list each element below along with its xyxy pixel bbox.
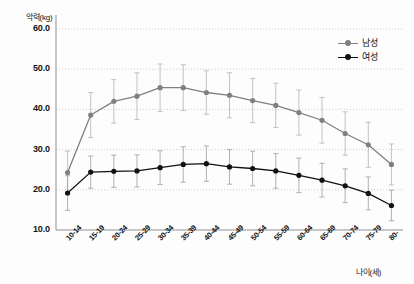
y-tick-label: 30.0 <box>6 144 50 154</box>
y-tick-label: 60.0 <box>6 23 50 33</box>
legend-item-female: 여성 <box>338 50 377 64</box>
legend-marker-male-icon <box>338 38 358 48</box>
y-tick-label: 10.0 <box>6 224 50 234</box>
y-tick-label: 20.0 <box>6 184 50 194</box>
chart-legend: 남성 여성 <box>338 36 377 64</box>
y-tick-label: 40.0 <box>6 103 50 113</box>
legend-marker-female-icon <box>338 52 358 62</box>
grip-strength-chart: 악력(kg) 나이(세) 10.020.030.040.050.060.0 10… <box>0 0 414 284</box>
legend-label-male: 남성 <box>362 36 377 50</box>
legend-item-male: 남성 <box>338 36 377 50</box>
legend-label-female: 여성 <box>362 50 377 64</box>
y-tick-label: 50.0 <box>6 63 50 73</box>
error-bars <box>65 64 394 221</box>
